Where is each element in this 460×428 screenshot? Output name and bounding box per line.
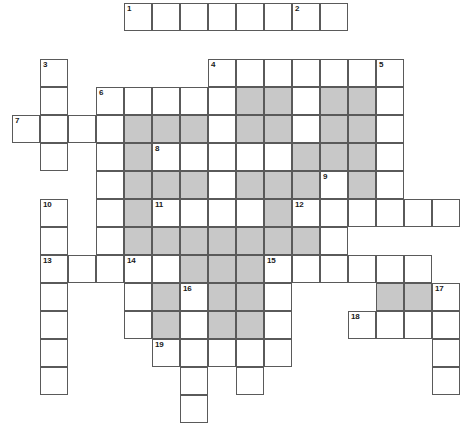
crossword-cell[interactable] <box>432 339 460 367</box>
crossword-cell[interactable] <box>264 339 292 367</box>
crossword-cell[interactable] <box>68 115 96 143</box>
crossword-cell[interactable] <box>180 339 208 367</box>
crossword-cell[interactable] <box>292 255 320 283</box>
crossword-cell[interactable] <box>40 311 68 339</box>
crossword-cell-start-15[interactable]: 15 <box>264 255 292 283</box>
crossword-cell[interactable] <box>208 87 236 115</box>
crossword-cell[interactable] <box>376 115 404 143</box>
crossword-cell[interactable] <box>152 87 180 115</box>
crossword-cell[interactable] <box>320 227 348 255</box>
crossword-cell-start-13[interactable]: 13 <box>40 255 68 283</box>
crossword-cell[interactable] <box>348 255 376 283</box>
crossword-cell[interactable] <box>40 227 68 255</box>
crossword-cell[interactable] <box>180 87 208 115</box>
crossword-cell[interactable] <box>40 367 68 395</box>
crossword-cell[interactable] <box>208 199 236 227</box>
crossword-cell[interactable] <box>68 255 96 283</box>
crossword-cell[interactable] <box>320 199 348 227</box>
crossword-cell[interactable] <box>208 339 236 367</box>
crossword-cell[interactable] <box>236 3 264 31</box>
crossword-cell-start-17[interactable]: 17 <box>432 283 460 311</box>
crossword-cell-start-7[interactable]: 7 <box>12 115 40 143</box>
crossword-cell[interactable] <box>292 115 320 143</box>
crossword-cell[interactable] <box>292 87 320 115</box>
crossword-cell[interactable] <box>180 3 208 31</box>
crossword-cell-start-4[interactable]: 4 <box>208 59 236 87</box>
crossword-cell[interactable] <box>208 3 236 31</box>
clue-number-8: 8 <box>155 144 159 154</box>
crossword-cell[interactable] <box>180 311 208 339</box>
crossword-cell-start-9[interactable]: 9 <box>320 171 348 199</box>
crossword-cell-shaded <box>236 255 264 283</box>
crossword-cell-shaded <box>264 199 292 227</box>
crossword-cell[interactable] <box>320 3 348 31</box>
crossword-cell[interactable] <box>404 255 432 283</box>
crossword-cell[interactable] <box>124 311 152 339</box>
crossword-cell[interactable] <box>432 311 460 339</box>
crossword-cell[interactable] <box>236 367 264 395</box>
crossword-cell[interactable] <box>208 115 236 143</box>
crossword-cell-start-5[interactable]: 5 <box>376 59 404 87</box>
crossword-cell[interactable] <box>376 311 404 339</box>
crossword-cell[interactable] <box>40 283 68 311</box>
crossword-cell[interactable] <box>264 283 292 311</box>
crossword-cell-start-12[interactable]: 12 <box>292 199 320 227</box>
crossword-cell[interactable] <box>208 143 236 171</box>
crossword-cell[interactable] <box>96 255 124 283</box>
crossword-cell[interactable] <box>180 395 208 423</box>
crossword-cell[interactable] <box>236 59 264 87</box>
crossword-cell[interactable] <box>432 199 460 227</box>
crossword-cell[interactable] <box>124 87 152 115</box>
crossword-cell[interactable] <box>236 199 264 227</box>
crossword-cell[interactable] <box>320 255 348 283</box>
crossword-cell[interactable] <box>320 59 348 87</box>
clue-number-18: 18 <box>351 312 359 322</box>
crossword-cell-start-11[interactable]: 11 <box>152 199 180 227</box>
crossword-cell[interactable] <box>264 311 292 339</box>
crossword-cell[interactable] <box>180 367 208 395</box>
crossword-cell[interactable] <box>96 143 124 171</box>
crossword-cell[interactable] <box>180 199 208 227</box>
crossword-cell[interactable] <box>40 115 68 143</box>
crossword-cell[interactable] <box>152 3 180 31</box>
crossword-cell[interactable] <box>264 143 292 171</box>
crossword-cell-shaded <box>348 171 376 199</box>
crossword-cell[interactable] <box>376 87 404 115</box>
crossword-cell[interactable] <box>264 59 292 87</box>
crossword-cell-start-18[interactable]: 18 <box>348 311 376 339</box>
crossword-cell-start-10[interactable]: 10 <box>40 199 68 227</box>
crossword-cell-start-3[interactable]: 3 <box>40 59 68 87</box>
crossword-cell-start-6[interactable]: 6 <box>96 87 124 115</box>
crossword-cell-start-14[interactable]: 14 <box>124 255 152 283</box>
crossword-cell-start-8[interactable]: 8 <box>152 143 180 171</box>
crossword-cell-start-2[interactable]: 2 <box>292 3 320 31</box>
crossword-cell[interactable] <box>376 143 404 171</box>
crossword-cell-start-19[interactable]: 19 <box>152 339 180 367</box>
crossword-cell[interactable] <box>124 283 152 311</box>
crossword-cell[interactable] <box>40 87 68 115</box>
crossword-cell[interactable] <box>404 311 432 339</box>
crossword-cell[interactable] <box>40 339 68 367</box>
crossword-cell[interactable] <box>292 59 320 87</box>
crossword-cell[interactable] <box>236 339 264 367</box>
crossword-cell[interactable] <box>376 171 404 199</box>
crossword-cell[interactable] <box>348 199 376 227</box>
crossword-cell[interactable] <box>236 143 264 171</box>
crossword-cell[interactable] <box>376 255 404 283</box>
crossword-cell[interactable] <box>40 143 68 171</box>
crossword-cell[interactable] <box>96 199 124 227</box>
crossword-cell[interactable] <box>404 199 432 227</box>
crossword-cell[interactable] <box>96 227 124 255</box>
crossword-cell[interactable] <box>152 255 180 283</box>
crossword-cell[interactable] <box>264 3 292 31</box>
crossword-cell[interactable] <box>180 143 208 171</box>
crossword-cell[interactable] <box>432 367 460 395</box>
crossword-cell[interactable] <box>96 115 124 143</box>
crossword-cell[interactable] <box>208 171 236 199</box>
crossword-cell[interactable] <box>348 59 376 87</box>
crossword-cell[interactable] <box>376 199 404 227</box>
crossword-cell-start-16[interactable]: 16 <box>180 283 208 311</box>
crossword-cell[interactable] <box>96 171 124 199</box>
crossword-cell-start-1[interactable]: 1 <box>124 3 152 31</box>
